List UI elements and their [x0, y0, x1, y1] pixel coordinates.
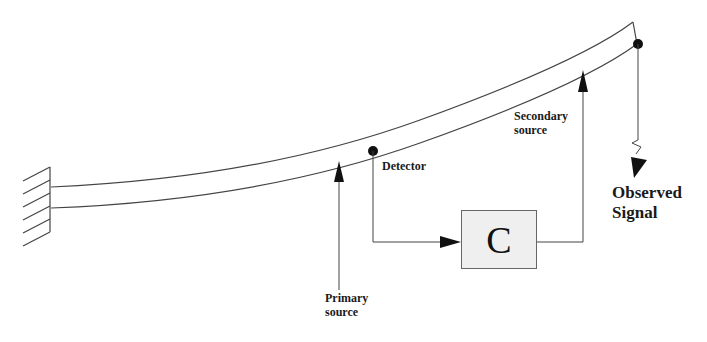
controller-label: C — [486, 218, 511, 262]
observed-signal-probe — [631, 39, 647, 178]
observed-signal-label: Observed Signal — [612, 183, 682, 222]
primary-source-arrow — [334, 161, 344, 290]
controller-box: C — [461, 210, 537, 269]
primary-source-label: Primary source — [325, 292, 368, 320]
fixed-wall — [23, 167, 50, 246]
beam-control-diagram: C Detector Primary source Secondary sour… — [0, 0, 707, 342]
secondary-source-arrow — [537, 70, 588, 242]
detector-label: Detector — [382, 160, 426, 174]
secondary-source-label: Secondary source — [514, 110, 568, 138]
